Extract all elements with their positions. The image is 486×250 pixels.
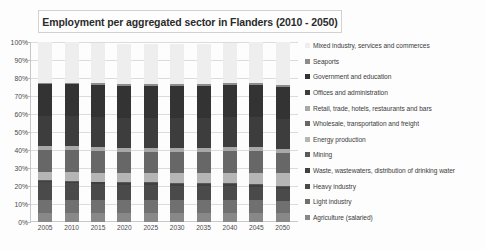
bar-segment[interactable]: [276, 87, 290, 119]
bar-segment[interactable]: [170, 200, 184, 213]
bar-segment[interactable]: [38, 42, 52, 83]
bar-segment[interactable]: [223, 173, 237, 184]
bar-segment[interactable]: [223, 213, 237, 222]
bar-segment[interactable]: [249, 151, 263, 173]
bar-segment[interactable]: [117, 152, 131, 174]
bar-segment[interactable]: [276, 173, 290, 186]
bar-segment[interactable]: [197, 86, 211, 118]
bar-column[interactable]: [144, 42, 158, 222]
bar-segment[interactable]: [38, 84, 52, 116]
bar-segment[interactable]: [223, 186, 237, 200]
bar-segment[interactable]: [197, 118, 211, 149]
bar-segment[interactable]: [170, 152, 184, 174]
legend-item[interactable]: Mixed industry, services and commerces: [305, 38, 483, 54]
legend-item[interactable]: Offices and administration: [305, 85, 483, 101]
bar-segment[interactable]: [170, 186, 184, 200]
legend-item[interactable]: Wholesale, transportation and freight: [305, 116, 483, 132]
bar-segment[interactable]: [249, 200, 263, 213]
bar-segment[interactable]: [91, 43, 105, 84]
bar-segment[interactable]: [91, 213, 105, 222]
bar-segment[interactable]: [91, 117, 105, 148]
legend-item[interactable]: Government and education: [305, 69, 483, 85]
bar-column[interactable]: [38, 42, 52, 222]
bar-segment[interactable]: [65, 213, 79, 222]
bar-segment[interactable]: [144, 152, 158, 174]
bar-segment[interactable]: [91, 184, 105, 200]
bar-segment[interactable]: [144, 200, 158, 213]
legend-item[interactable]: Light industry: [305, 194, 483, 210]
bar-segment[interactable]: [276, 42, 290, 85]
bar-segment[interactable]: [223, 117, 237, 148]
bar-segment[interactable]: [249, 42, 263, 83]
bar-segment[interactable]: [65, 172, 79, 181]
bar-segment[interactable]: [91, 151, 105, 173]
bar-segment[interactable]: [65, 183, 79, 200]
bar-segment[interactable]: [249, 117, 263, 148]
bar-column[interactable]: [197, 42, 211, 222]
bar-segment[interactable]: [197, 213, 211, 222]
bar-column[interactable]: [91, 42, 105, 222]
legend-item[interactable]: Heavy industry: [305, 178, 483, 194]
bar-segment[interactable]: [91, 173, 105, 182]
legend-item[interactable]: Energy production: [305, 132, 483, 148]
bar-segment[interactable]: [117, 44, 131, 85]
bar-segment[interactable]: [117, 200, 131, 213]
bar-segment[interactable]: [91, 200, 105, 213]
bar-segment[interactable]: [170, 173, 184, 183]
bar-segment[interactable]: [65, 200, 79, 213]
legend-item[interactable]: Agriculture (salaried): [305, 210, 483, 226]
bar-segment[interactable]: [144, 86, 158, 118]
bar-column[interactable]: [223, 42, 237, 222]
bar-segment[interactable]: [144, 44, 158, 85]
legend-item[interactable]: Waste, wastewaters, distribution of drin…: [305, 163, 483, 179]
bar-segment[interactable]: [197, 44, 211, 85]
bar-segment[interactable]: [249, 187, 263, 201]
bar-segment[interactable]: [276, 189, 290, 202]
bar-segment[interactable]: [144, 118, 158, 149]
bar-segment[interactable]: [117, 118, 131, 149]
bar-segment[interactable]: [38, 172, 52, 180]
bar-segment[interactable]: [170, 118, 184, 149]
bar-segment[interactable]: [65, 84, 79, 116]
bar-segment[interactable]: [249, 213, 263, 222]
bar-segment[interactable]: [38, 182, 52, 200]
bar-column[interactable]: [249, 42, 263, 222]
bar-segment[interactable]: [170, 213, 184, 222]
bar-segment[interactable]: [170, 86, 184, 118]
bar-segment[interactable]: [276, 201, 290, 213]
bar-segment[interactable]: [197, 200, 211, 213]
bar-segment[interactable]: [117, 185, 131, 200]
bar-column[interactable]: [170, 42, 184, 222]
bar-segment[interactable]: [249, 85, 263, 117]
bar-segment[interactable]: [65, 150, 79, 172]
bar-segment[interactable]: [249, 173, 263, 185]
bar-segment[interactable]: [144, 213, 158, 222]
bar-segment[interactable]: [144, 185, 158, 200]
bar-segment[interactable]: [117, 213, 131, 222]
bar-segment[interactable]: [117, 86, 131, 118]
bar-segment[interactable]: [223, 200, 237, 213]
bar-segment[interactable]: [65, 42, 79, 83]
bar-segment[interactable]: [276, 119, 290, 150]
legend-item[interactable]: Mining: [305, 147, 483, 163]
bar-segment[interactable]: [223, 151, 237, 173]
legend-item[interactable]: Seaports: [305, 54, 483, 70]
bar-segment[interactable]: [197, 186, 211, 200]
bar-segment[interactable]: [276, 213, 290, 222]
bar-segment[interactable]: [170, 44, 184, 85]
bar-column[interactable]: [276, 42, 290, 222]
bar-segment[interactable]: [223, 85, 237, 117]
bar-segment[interactable]: [276, 153, 290, 174]
bar-segment[interactable]: [38, 150, 52, 172]
bar-segment[interactable]: [38, 116, 52, 147]
bar-segment[interactable]: [223, 43, 237, 84]
bar-segment[interactable]: [117, 173, 131, 182]
bar-segment[interactable]: [65, 116, 79, 147]
bar-column[interactable]: [117, 42, 131, 222]
bar-segment[interactable]: [144, 173, 158, 182]
bar-segment[interactable]: [91, 85, 105, 117]
bar-segment[interactable]: [197, 173, 211, 183]
bar-segment[interactable]: [38, 200, 52, 213]
bar-segment[interactable]: [38, 213, 52, 222]
bar-column[interactable]: [65, 42, 79, 222]
